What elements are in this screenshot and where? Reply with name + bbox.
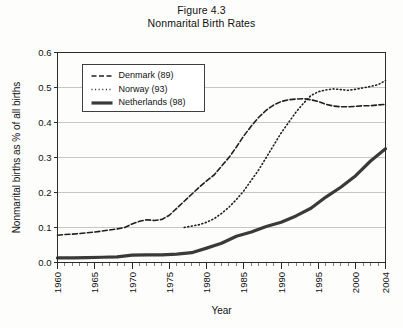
y-tick-label: 0.0 <box>38 257 51 268</box>
x-tick-label: 1985 <box>238 272 249 293</box>
x-tick-label: 2000 <box>350 272 361 293</box>
y-tick-label: 0.4 <box>38 117 51 128</box>
legend-label: Norway (93) <box>119 84 168 94</box>
y-tick-label: 0.1 <box>38 222 51 233</box>
x-tick-label: 1995 <box>313 272 324 293</box>
x-tick-label: 1975 <box>164 272 175 293</box>
x-tick-label: 1965 <box>89 272 100 293</box>
x-tick-label: 2004 <box>380 272 391 293</box>
x-axis-tick-labels: 1960196519701975198019851990199520002004 <box>52 272 391 293</box>
x-tick-label: 1970 <box>127 272 138 293</box>
legend-label: Netherlands (98) <box>119 97 186 107</box>
x-tick-label: 1990 <box>276 272 287 293</box>
chart-legend: Denmark (89)Norway (93)Netherlands (98) <box>83 65 205 112</box>
series-line <box>58 99 386 236</box>
x-tick-label: 1980 <box>201 272 212 293</box>
legend-label: Denmark (89) <box>119 70 174 80</box>
y-axis-title: Nonmarital births as % of all births <box>11 82 22 234</box>
y-axis-tick-labels: 0.00.10.20.30.40.50.6 <box>38 47 51 268</box>
y-tick-label: 0.6 <box>38 47 51 58</box>
y-axis-ticks <box>54 53 58 263</box>
y-tick-label: 0.3 <box>38 152 51 163</box>
x-tick-label: 1960 <box>52 272 63 293</box>
y-tick-label: 0.2 <box>38 187 51 198</box>
figure-container: Figure 4.3 Nonmarital Birth Rates 0.00.1… <box>0 0 403 328</box>
nonmarital-birth-rates-chart: 0.00.10.20.30.40.50.6 196019651970197519… <box>0 0 403 328</box>
x-axis-ticks <box>58 263 386 269</box>
series-line <box>184 81 385 228</box>
x-axis-title: Year <box>211 305 232 316</box>
y-tick-label: 0.5 <box>38 82 51 93</box>
